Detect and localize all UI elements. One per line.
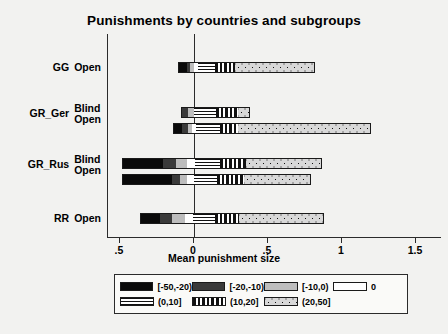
legend-row-2: (0,10](10,20](20,50] (120, 294, 402, 309)
bar-segment (238, 124, 370, 133)
x-axis-tick (193, 238, 194, 243)
bar-segment (239, 214, 323, 223)
bar-segment (141, 214, 160, 223)
legend-label: [-20,-10) (229, 282, 264, 292)
bar-segment (179, 63, 187, 72)
chart-root: Punishments by countries and subgroups G… (0, 0, 448, 334)
bar-segment (194, 108, 216, 117)
bar-segment (123, 159, 163, 168)
bar-segment (180, 175, 187, 184)
y-label-subgroup: Open (74, 213, 101, 224)
bar-gr-ger-open (173, 123, 371, 134)
legend-swatch (120, 282, 153, 291)
legend-swatch (333, 282, 367, 291)
legend: [-50,-20)[-20,-10)[-10,0)0 (0,10](10,20]… (114, 274, 408, 314)
legend-item: [-50,-20) (120, 282, 192, 292)
bar-segment (123, 175, 172, 184)
bar-segment (172, 214, 184, 223)
x-axis-tick (267, 238, 268, 243)
legend-item: 0 (333, 282, 402, 292)
bar-gr-rus-blind (122, 158, 322, 169)
y-label-subgroups: Open (74, 62, 101, 73)
bar-segment (160, 214, 172, 223)
x-axis-tick (415, 238, 416, 243)
legend-swatch (192, 282, 225, 291)
legend-label: [-50,-20) (157, 282, 192, 292)
legend-item: [-20,-10) (192, 282, 264, 292)
bar-segment (196, 124, 220, 133)
bar-segment (187, 159, 194, 168)
bar-gg-open (178, 62, 315, 73)
bar-segment (217, 175, 243, 184)
y-axis-label-gg: GGOpen (53, 56, 101, 80)
bar-segment (176, 159, 187, 168)
bars-layer (107, 34, 441, 238)
bar-segment (216, 108, 238, 117)
bar-segment (185, 214, 193, 223)
legend-label: (20,50] (302, 297, 331, 307)
bar-gr-rus-open (122, 174, 311, 185)
legend-item: (0,10] (120, 297, 192, 307)
bar-segment (235, 63, 314, 72)
legend-item: (20,50] (264, 297, 336, 307)
legend-label: [-10,0) (302, 282, 329, 292)
x-axis-tick (341, 238, 342, 243)
y-label-subgroups: BlindOpen (74, 103, 101, 125)
bar-segment (246, 159, 321, 168)
bar-rr-open (140, 213, 324, 224)
legend-label: (10,20] (230, 297, 259, 307)
y-axis-category-labels: GGOpenGR_GerBlindOpenGR_RusBlindOpenRROp… (0, 34, 105, 238)
legend-label: 0 (371, 282, 376, 292)
y-axis-label-gr_ger: GR_GerBlindOpen (29, 102, 101, 126)
y-label-subgroups: Open (74, 213, 101, 224)
y-axis-label-gr_rus: GR_RusBlindOpen (28, 153, 101, 177)
bar-segment (238, 108, 249, 117)
bar-segment (195, 159, 221, 168)
bar-segment (198, 63, 215, 72)
bar-segment (193, 214, 216, 223)
bar-segment (220, 159, 246, 168)
legend-swatch (264, 297, 298, 306)
bar-segment (220, 124, 238, 133)
bar-segment (244, 175, 311, 184)
legend-row-1: [-50,-20)[-20,-10)[-10,0)0 (120, 279, 402, 294)
legend-swatch (264, 282, 298, 291)
y-axis-label-rr: RROpen (54, 207, 101, 231)
legend-swatch (192, 297, 226, 306)
y-label-group: GG (53, 62, 69, 73)
legend-swatch (120, 297, 154, 306)
y-label-group: GR_Ger (29, 108, 69, 119)
bar-gr-ger-blind (181, 107, 250, 118)
bar-segment (215, 63, 235, 72)
x-axis-title: Mean punishment size (0, 252, 448, 264)
bar-segment (215, 214, 238, 223)
bar-segment (194, 175, 217, 184)
x-axis-tick (119, 238, 120, 243)
bar-segment (187, 175, 194, 184)
bar-segment (163, 159, 177, 168)
bar-segment (172, 175, 180, 184)
y-label-group: GR_Rus (28, 159, 69, 170)
chart-title: Punishments by countries and subgroups (0, 13, 448, 28)
y-label-subgroup: Open (74, 62, 101, 73)
legend-label: (0,10] (158, 297, 182, 307)
legend-item: (10,20] (192, 297, 264, 307)
legend-item: [-10,0) (264, 282, 333, 292)
y-label-subgroup: Open (74, 165, 101, 176)
y-label-subgroups: BlindOpen (74, 154, 101, 176)
bar-segment (174, 124, 182, 133)
y-label-group: RR (54, 213, 69, 224)
y-label-subgroup: Open (74, 114, 101, 125)
